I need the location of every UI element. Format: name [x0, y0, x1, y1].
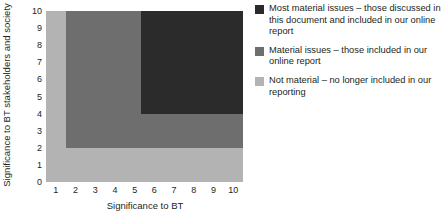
- x-tick-3: 3: [87, 185, 103, 196]
- x-axis-tick-labels: 12345678910: [0, 185, 250, 197]
- y-tick-7: 7: [26, 57, 42, 67]
- x-tick-10: 10: [225, 185, 241, 196]
- legend-item: Not material – no longer included in our…: [255, 75, 443, 98]
- y-tick-10: 10: [26, 6, 42, 16]
- y-tick-4: 4: [26, 109, 42, 119]
- legend-swatch-icon: [255, 47, 264, 56]
- x-tick-4: 4: [107, 185, 123, 196]
- materiality-matrix-figure: Significance to BT stakeholders and soci…: [0, 0, 443, 222]
- y-tick-3: 3: [26, 126, 42, 136]
- legend-label: Material issues – those included in our …: [269, 45, 443, 68]
- y-tick-6: 6: [26, 74, 42, 84]
- chart-area: Significance to BT stakeholders and soci…: [0, 0, 250, 222]
- x-tick-7: 7: [166, 185, 182, 196]
- legend-label: Most material issues – those discussed i…: [269, 3, 443, 38]
- y-axis-title: Significance to BT stakeholders and soci…: [0, 0, 14, 190]
- legend: Most material issues – those discussed i…: [255, 3, 443, 105]
- x-tick-5: 5: [127, 185, 143, 196]
- y-tick-1: 1: [26, 160, 42, 170]
- x-tick-6: 6: [146, 185, 162, 196]
- x-tick-8: 8: [186, 185, 202, 196]
- x-axis-title: Significance to BT: [46, 200, 244, 212]
- plot-area: [46, 11, 243, 182]
- y-tick-5: 5: [26, 92, 42, 102]
- x-tick-1: 1: [48, 185, 64, 196]
- legend-swatch-icon: [255, 77, 264, 86]
- x-tick-2: 2: [68, 185, 84, 196]
- legend-item: Most material issues – those discussed i…: [255, 3, 443, 38]
- y-tick-8: 8: [26, 40, 42, 50]
- region-most-material-issues: [141, 11, 243, 114]
- y-tick-9: 9: [26, 23, 42, 33]
- legend-label: Not material – no longer included in our…: [269, 75, 443, 98]
- legend-swatch-icon: [255, 5, 264, 14]
- legend-item: Material issues – those included in our …: [255, 45, 443, 68]
- x-tick-9: 9: [205, 185, 221, 196]
- y-tick-2: 2: [26, 143, 42, 153]
